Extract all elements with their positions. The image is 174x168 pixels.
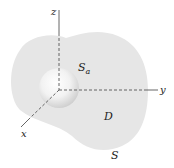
y-axis-label: y — [159, 84, 166, 95]
z-axis-label: z — [50, 6, 57, 17]
outer-surface-label: S — [111, 149, 119, 162]
region-label: D — [103, 110, 113, 123]
diagram-canvas: z y x Sa D S — [0, 0, 174, 168]
x-axis-label: x — [21, 128, 27, 139]
inner-surface-label-sub: a — [86, 67, 91, 76]
x-axis-solid — [21, 118, 30, 127]
region-d-blob — [11, 32, 148, 150]
